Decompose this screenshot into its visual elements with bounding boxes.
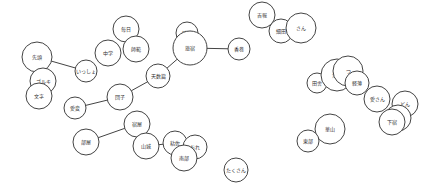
node-label: 華山 bbox=[325, 126, 335, 133]
node-label: 天数篇 bbox=[151, 73, 166, 80]
node-n_san[interactable]: さん bbox=[286, 13, 316, 43]
node-label: いっしょ bbox=[76, 68, 96, 74]
node-n_sentou[interactable]: 先頭 bbox=[22, 42, 52, 72]
nodes-layer: 先頭ゴルキ文字いっしょ中学毎日師範補陣旅宿香巻天数篇団子愛変吉報細田さん田舎江戸… bbox=[22, 2, 418, 182]
node-label: 東部 bbox=[303, 138, 313, 145]
node-label: 山城 bbox=[141, 143, 151, 150]
node-label: 部屋 bbox=[81, 139, 91, 146]
node-label: 愛変 bbox=[70, 105, 80, 112]
node-label: 細田 bbox=[276, 28, 286, 35]
node-label: 毎日 bbox=[121, 26, 131, 33]
node-n_shimoya[interactable]: 下宿 bbox=[379, 109, 405, 135]
node-label: さん bbox=[296, 25, 306, 32]
node-label: 団子 bbox=[115, 94, 125, 101]
node-label: 中学 bbox=[103, 50, 113, 57]
node-n_keihaku[interactable]: 軽薄 bbox=[345, 71, 369, 95]
node-n_ryoshuku[interactable]: 旅宿 bbox=[173, 31, 207, 65]
node-label: 宿屋 bbox=[132, 121, 142, 128]
node-label: 先頭 bbox=[32, 54, 42, 61]
node-label: 師範 bbox=[131, 46, 141, 53]
node-label: 吉報 bbox=[257, 12, 267, 19]
node-n_chuugaku[interactable]: 中学 bbox=[95, 40, 121, 66]
node-n_heya[interactable]: 部屋 bbox=[73, 129, 99, 155]
node-n_yamashiro[interactable]: 山城 bbox=[133, 133, 159, 159]
node-n_bunji[interactable]: 文字 bbox=[26, 83, 52, 109]
node-label: 南部 bbox=[179, 155, 189, 162]
node-label: 下宿 bbox=[387, 119, 397, 126]
node-label: 軽薄 bbox=[352, 80, 362, 87]
node-label: たくさん bbox=[226, 167, 246, 174]
node-n_issho[interactable]: いっしょ bbox=[75, 60, 97, 82]
node-n_kazan[interactable]: 華山 bbox=[315, 114, 345, 144]
node-label: 香巻 bbox=[234, 46, 244, 53]
node-label: 田舎 bbox=[312, 80, 322, 87]
node-n_shihan[interactable]: 師範 bbox=[123, 36, 149, 62]
node-n_aisan[interactable]: 愛さん bbox=[364, 86, 390, 112]
node-label: 文字 bbox=[34, 93, 44, 100]
node-n_tendoku[interactable]: 天数篇 bbox=[146, 64, 170, 88]
node-label: 愛さん bbox=[370, 96, 385, 103]
node-n_nanbu[interactable]: 南部 bbox=[171, 145, 197, 171]
network-graph: 先頭ゴルキ文字いっしょ中学毎日師範補陣旅宿香巻天数篇団子愛変吉報細田さん田舎江戸… bbox=[0, 0, 442, 190]
node-n_toubu[interactable]: 東部 bbox=[297, 130, 319, 152]
node-n_takusan[interactable]: たくさん bbox=[224, 158, 248, 182]
node-n_dango[interactable]: 団子 bbox=[107, 84, 133, 110]
node-n_aihen[interactable]: 愛変 bbox=[64, 97, 86, 119]
node-n_kouka[interactable]: 香巻 bbox=[228, 38, 250, 60]
node-label: 旅宿 bbox=[185, 45, 195, 52]
